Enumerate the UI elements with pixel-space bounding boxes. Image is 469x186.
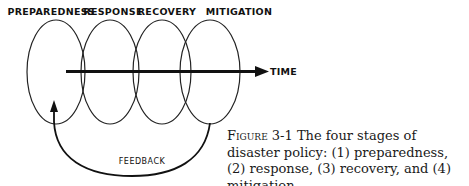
stage-label-preparedness: PREPAREDNESS <box>7 6 94 17</box>
time-arrow-head-icon <box>255 66 269 77</box>
stage-label-mitigation: MITIGATION <box>206 6 272 17</box>
stage-label-recovery: RECOVERY <box>138 6 197 17</box>
feedback-arc <box>54 111 210 176</box>
feedback-label: FEEDBACK <box>119 157 166 166</box>
time-axis-label: TIME <box>270 66 297 77</box>
figure-number: Figure 3-1 <box>227 128 293 143</box>
stage-label-response: RESPONSE <box>83 6 142 17</box>
figure-caption: Figure 3-1 The four stages of disaster p… <box>227 128 467 186</box>
feedback-arrow-head-icon <box>50 100 58 112</box>
